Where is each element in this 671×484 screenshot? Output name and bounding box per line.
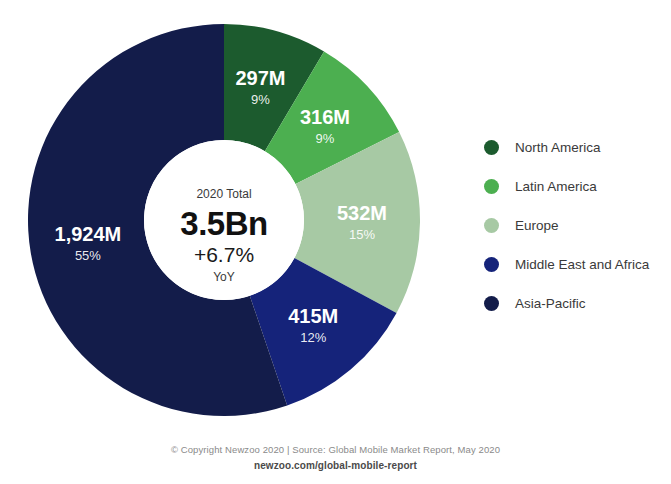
legend-swatch-icon — [484, 218, 499, 233]
legend-item-label: Latin America — [515, 179, 597, 194]
slice-percent-label: 15% — [349, 227, 375, 242]
center-total-label: 2020 Total — [196, 187, 251, 201]
footer-url[interactable]: newzoo.com/global-mobile-report — [0, 460, 671, 471]
slice-percent-label: 12% — [300, 330, 326, 345]
legend-item[interactable]: Latin America — [484, 167, 664, 206]
legend-item-label: Middle East and Africa — [515, 257, 649, 272]
slice-percent-label: 9% — [316, 131, 335, 146]
donut-chart-svg: 297M9%316M9%532M15%415M12%1,924M55% 2020… — [24, 20, 424, 420]
mobile-users-donut-figure: 297M9%316M9%532M15%415M12%1,924M55% 2020… — [0, 0, 671, 484]
legend-swatch-icon — [484, 179, 499, 194]
chart-footer: © Copyright Newzoo 2020 | Source: Global… — [0, 444, 671, 471]
legend-item-label: Europe — [515, 218, 559, 233]
legend-swatch-icon — [484, 296, 499, 311]
legend-item[interactable]: Asia-Pacific — [484, 284, 664, 323]
legend-item-label: North America — [515, 140, 601, 155]
slice-percent-label: 55% — [75, 248, 101, 263]
slice-value-label: 316M — [300, 106, 350, 128]
legend-swatch-icon — [484, 140, 499, 155]
slice-value-label: 415M — [288, 305, 338, 327]
footer-copyright: © Copyright Newzoo 2020 | Source: Global… — [0, 444, 671, 455]
donut-chart: 297M9%316M9%532M15%415M12%1,924M55% 2020… — [24, 20, 424, 420]
legend-item[interactable]: Middle East and Africa — [484, 245, 664, 284]
legend-item[interactable]: Europe — [484, 206, 664, 245]
slice-value-label: 1,924M — [55, 223, 122, 245]
legend-item-label: Asia-Pacific — [515, 296, 586, 311]
chart-legend: North AmericaLatin AmericaEuropeMiddle E… — [484, 128, 664, 323]
slice-value-label: 532M — [337, 202, 387, 224]
legend-item[interactable]: North America — [484, 128, 664, 167]
center-growth-value: +6.7% — [194, 243, 254, 266]
center-growth-period: YoY — [213, 270, 235, 284]
slice-value-label: 297M — [235, 67, 285, 89]
slice-percent-label: 9% — [251, 92, 270, 107]
center-total-value: 3.5Bn — [180, 205, 267, 242]
legend-swatch-icon — [484, 257, 499, 272]
